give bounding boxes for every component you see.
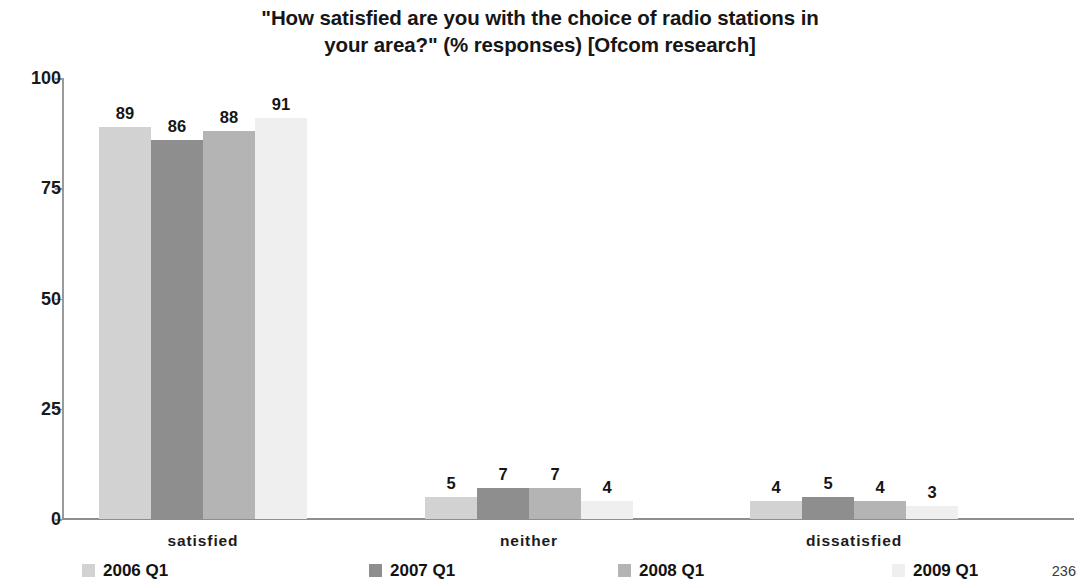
legend-item-2007-q1[interactable]: 2007 Q1	[369, 559, 455, 581]
legend-swatch-icon	[618, 564, 631, 577]
bar-value-label: 7	[529, 466, 581, 483]
legend-swatch-icon	[82, 564, 95, 577]
bar[interactable]	[750, 501, 802, 519]
bar-value-label: 5	[802, 475, 854, 492]
bar[interactable]	[151, 140, 203, 519]
y-tick-label: 100	[1, 69, 61, 87]
bar[interactable]	[581, 501, 633, 519]
legend-item-2009-q1[interactable]: 2009 Q1	[892, 559, 978, 581]
chart-title-line-2: your area?" (% responses) [Ofcom researc…	[190, 31, 890, 58]
legend-swatch-icon	[892, 564, 905, 577]
bar-value-label: 4	[854, 479, 906, 496]
bar[interactable]	[255, 118, 307, 519]
page-number: 236	[1052, 563, 1076, 579]
bar-value-label: 5	[425, 475, 477, 492]
bar[interactable]	[203, 131, 255, 519]
legend-label: 2007 Q1	[390, 561, 455, 580]
bar[interactable]	[529, 488, 581, 519]
legend-item-2006-q1[interactable]: 2006 Q1	[82, 559, 168, 581]
plot-area: 0255075100 8986889157744543	[62, 78, 1074, 519]
chart-title: "How satisfied are you with the choice o…	[190, 4, 890, 58]
category-label-neither: neither	[425, 532, 633, 550]
bar[interactable]	[477, 488, 529, 519]
category-label-satisfied: satisfied	[99, 532, 307, 550]
bar[interactable]	[854, 501, 906, 519]
bar-value-label: 86	[151, 118, 203, 135]
legend-label: 2006 Q1	[103, 561, 168, 580]
y-tick-label: 50	[1, 290, 61, 308]
bar-value-label: 91	[255, 96, 307, 113]
bar[interactable]	[802, 497, 854, 519]
bar-value-label: 89	[99, 105, 151, 122]
bar-value-label: 7	[477, 466, 529, 483]
legend-label: 2009 Q1	[913, 561, 978, 580]
y-tick-label: 0	[1, 510, 61, 528]
bar[interactable]	[425, 497, 477, 519]
bar-value-label: 4	[581, 479, 633, 496]
legend-item-2008-q1[interactable]: 2008 Q1	[618, 559, 704, 581]
chart-legend: 2006 Q12007 Q12008 Q12009 Q1	[0, 559, 1082, 583]
legend-swatch-icon	[369, 564, 382, 577]
bar-value-label: 4	[750, 479, 802, 496]
bar[interactable]	[906, 506, 958, 519]
bar-value-label: 3	[906, 484, 958, 501]
chart-page: "How satisfied are you with the choice o…	[0, 0, 1082, 583]
legend-label: 2008 Q1	[639, 561, 704, 580]
chart-title-line-1: "How satisfied are you with the choice o…	[190, 4, 890, 31]
bar[interactable]	[99, 127, 151, 519]
y-tick-label: 75	[1, 179, 61, 197]
category-label-dissatisfied: dissatisfied	[750, 532, 958, 550]
bar-value-label: 88	[203, 109, 255, 126]
y-tick-label: 25	[1, 400, 61, 418]
